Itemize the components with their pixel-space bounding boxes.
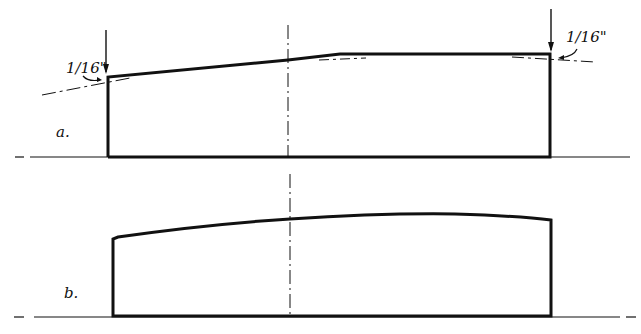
leader-left-arrowhead-icon xyxy=(97,77,102,82)
label-a: a. xyxy=(56,123,70,141)
profile-a xyxy=(108,54,550,157)
arrow-right-icon xyxy=(548,42,554,52)
label-b: b. xyxy=(64,284,78,302)
extension-line-right xyxy=(512,57,595,62)
diagram-a xyxy=(15,9,630,157)
leader-right-arrowhead-icon xyxy=(558,55,564,60)
drawing-canvas: 1/16" 1/16" a. b. xyxy=(0,0,641,334)
dimension-left: 1/16" xyxy=(66,59,107,77)
extension-line-kink xyxy=(319,58,366,60)
dimension-right: 1/16" xyxy=(566,28,607,46)
extension-line-left xyxy=(42,78,130,95)
diagram-b xyxy=(14,174,636,317)
profile-b xyxy=(113,214,551,316)
